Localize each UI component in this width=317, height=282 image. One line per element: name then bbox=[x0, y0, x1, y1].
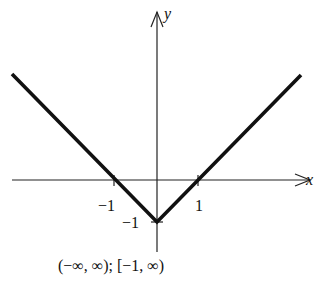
y-axis-label: y bbox=[164, 6, 171, 22]
tick-label-x-pos1: 1 bbox=[195, 198, 203, 214]
x-axis-label: x bbox=[306, 172, 313, 188]
tick-label-x-neg1: −1 bbox=[98, 198, 115, 214]
domain-range-annotation: (−∞, ∞); [−1, ∞) bbox=[58, 258, 164, 274]
tick-label-y-neg1: −1 bbox=[122, 215, 139, 231]
graph-canvas bbox=[0, 0, 317, 282]
